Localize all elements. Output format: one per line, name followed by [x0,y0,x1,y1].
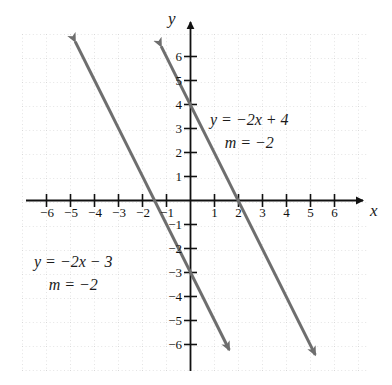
y-tick-label-neg4: −4 [162,289,182,305]
x-tick-label-5: 5 [304,205,317,221]
y-tick-label-4: 4 [168,97,182,113]
x-tick-label-4: 4 [280,205,293,221]
x-tick-label-neg6: −6 [38,205,56,221]
annotation-line-b: y = −2x − 3 m = −2 [34,250,113,296]
x-tick-label-neg3: −3 [110,205,128,221]
y-tick-label-6: 6 [168,49,182,65]
y-tick-label-3: 3 [168,121,182,137]
annotation-line-b-equation: y = −2x − 3 [34,250,113,273]
graph-canvas [0,0,392,385]
x-axis-label: x [370,200,378,223]
y-tick-label-neg1: −1 [162,217,182,233]
x-tick-label-6: 6 [328,205,341,221]
y-tick-label-neg6: −6 [162,337,182,353]
y-tick-label-neg3: −3 [162,265,182,281]
x-tick-label-neg5: −5 [62,205,80,221]
annotation-line-b-slope: m = −2 [34,273,113,296]
y-tick-label-2: 2 [168,145,182,161]
y-tick-label-neg2: −2 [162,241,182,257]
x-tick-label-1: 1 [208,205,221,221]
x-tick-label-neg4: −4 [86,205,104,221]
annotation-line-a-equation: y = −2x + 4 [210,108,289,131]
y-axis-label: y [168,8,176,31]
annotation-line-a: y = −2x + 4 m = −2 [210,108,289,154]
coordinate-plane-figure: y x −6 −5 −4 −3 −2 −1 1 2 3 4 5 6 6 5 4 … [0,0,392,385]
y-tick-label-5: 5 [168,73,182,89]
y-tick-label-neg5: −5 [162,313,182,329]
x-tick-label-neg2: −2 [134,205,152,221]
x-tick-label-2: 2 [232,205,245,221]
x-tick-label-3: 3 [256,205,269,221]
y-tick-label-1: 1 [168,169,182,185]
annotation-line-a-slope: m = −2 [210,131,289,154]
